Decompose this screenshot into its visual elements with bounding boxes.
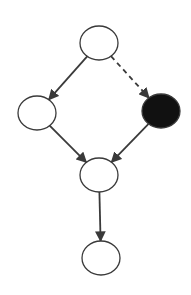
edge-left-to-middle-arrow [50, 126, 87, 163]
node-bottom [82, 241, 120, 275]
edge-top-to-left-arrow [49, 56, 87, 99]
edge-right-to-middle-arrow [111, 124, 148, 162]
node-middle [80, 158, 118, 192]
edge-middle-to-bottom-arrow [99, 192, 100, 241]
node-top [80, 26, 118, 60]
edges-layer [49, 56, 149, 241]
node-left [18, 96, 56, 130]
nodes-layer [18, 26, 180, 275]
graph-canvas [0, 0, 191, 295]
edge-top-to-right-dashed-arrow [111, 56, 149, 98]
node-right-filled [142, 94, 180, 128]
